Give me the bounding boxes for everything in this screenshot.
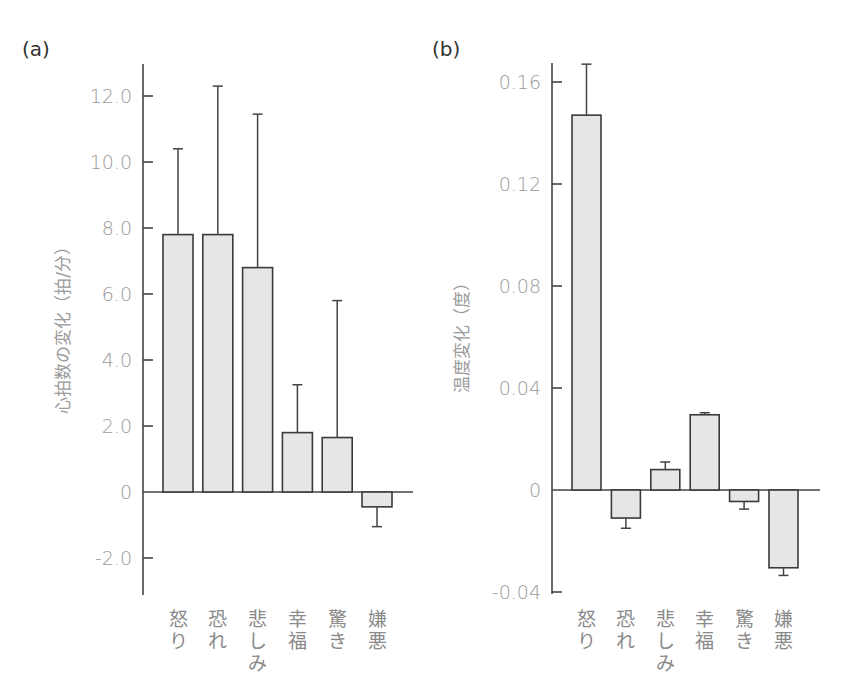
bar (769, 490, 798, 568)
bar (730, 490, 759, 501)
figure: (a)12.010.08.06.04.02.00-2.0心拍数の変化（拍/分）怒… (0, 0, 844, 692)
x-tick-label-char: れ (208, 630, 227, 652)
x-tick-label: 怒り (577, 608, 596, 652)
x-tick-label: 恐れ (208, 608, 227, 652)
bar (651, 470, 680, 490)
bar (362, 492, 392, 507)
x-tick-label: 悲しみ (656, 608, 675, 674)
x-tick-label-char: み (248, 652, 267, 674)
bar (163, 235, 193, 492)
x-tick-label-char: 嫌 (368, 608, 387, 630)
x-tick-label: 恐れ (616, 608, 635, 652)
y-tick-label: 0 (120, 481, 132, 503)
bar (203, 235, 233, 492)
chart-panel-b: (b)0.160.120.080.040-0.04温度変化（度）怒り恐れ悲しみ幸… (432, 37, 820, 674)
x-tick-label-char: 福 (288, 630, 307, 652)
x-tick-label-char: り (577, 630, 596, 652)
y-tick-label: 10.0 (90, 151, 132, 173)
x-tick-label-char: 驚 (328, 608, 347, 630)
x-tick-label-char: し (248, 630, 267, 652)
y-tick-label: 12.0 (90, 85, 132, 107)
x-tick-label-char: き (735, 630, 754, 652)
y-tick-label: 0.16 (499, 71, 541, 93)
x-tick-label-char: し (656, 630, 675, 652)
x-tick-label: 悲しみ (248, 608, 267, 674)
x-tick-label: 怒り (169, 608, 188, 652)
x-tick-label-char: 悲 (656, 608, 675, 630)
x-tick-label: 嫌悪 (774, 608, 793, 652)
bar (690, 415, 719, 490)
y-tick-label: 0 (529, 479, 541, 501)
y-tick-label: -2.0 (95, 547, 132, 569)
y-tick-label: 0.04 (499, 377, 541, 399)
x-tick-label-char: 恐 (208, 608, 227, 630)
x-tick-label: 幸福 (288, 608, 307, 652)
x-tick-label-char: れ (616, 630, 635, 652)
y-tick-label: 6.0 (102, 283, 132, 305)
x-tick-label-char: 福 (695, 630, 714, 652)
x-tick-label: 驚き (328, 608, 347, 652)
x-tick-label-char: 悪 (368, 630, 387, 652)
y-tick-label: 0.08 (499, 275, 541, 297)
panel-label: (b) (432, 37, 460, 61)
bar (282, 433, 312, 492)
y-tick-label: 4.0 (102, 349, 132, 371)
bar (243, 268, 273, 492)
y-tick-label: 2.0 (102, 415, 132, 437)
x-tick-label-char: 怒 (169, 608, 188, 630)
x-tick-label-char: 怒 (577, 608, 596, 630)
x-tick-label-char: り (169, 630, 188, 652)
x-tick-label-char: 幸 (695, 608, 714, 630)
x-tick-label-char: 嫌 (774, 608, 793, 630)
y-axis-title: 心拍数の変化（拍/分） (53, 238, 73, 414)
x-tick-label-char: 悲 (248, 608, 267, 630)
x-tick-label-char: 幸 (288, 608, 307, 630)
panel-label: (a) (22, 37, 50, 61)
chart-panel-a: (a)12.010.08.06.04.02.00-2.0心拍数の変化（拍/分）怒… (22, 37, 413, 674)
x-tick-label-char: 驚 (735, 608, 754, 630)
x-tick-label-char: み (656, 652, 675, 674)
x-tick-label: 幸福 (695, 608, 714, 652)
bar (611, 490, 640, 518)
x-tick-label-char: き (328, 630, 347, 652)
y-axis-title: 温度変化（度） (452, 274, 472, 393)
y-tick-label: 8.0 (102, 217, 132, 239)
y-tick-label: 0.12 (499, 173, 541, 195)
x-tick-label: 嫌悪 (368, 608, 387, 652)
bar (572, 115, 601, 490)
bar (322, 438, 352, 492)
x-tick-label-char: 悪 (774, 630, 793, 652)
x-tick-label: 驚き (735, 608, 754, 652)
y-tick-label: -0.04 (492, 581, 541, 603)
x-tick-label-char: 恐 (616, 608, 635, 630)
